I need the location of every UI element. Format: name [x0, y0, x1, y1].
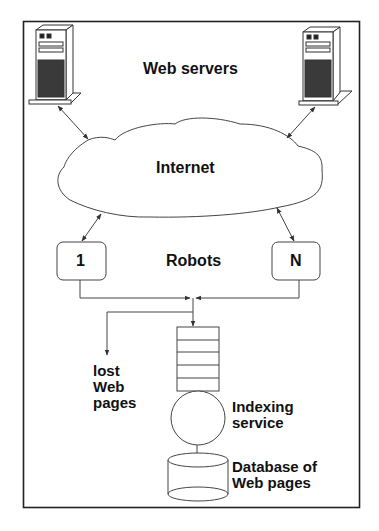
- indexing-service-circle: [171, 391, 225, 445]
- indexing-line-1: Indexing: [232, 399, 294, 415]
- indexing-line-2: service: [232, 415, 294, 431]
- database-label: Database of Web pages: [232, 459, 317, 491]
- server-right-icon: [299, 27, 352, 105]
- edge-internet-robot-n: [277, 208, 294, 241]
- edge-server-left-internet: [58, 106, 88, 139]
- lost-line-3: pages: [93, 395, 136, 411]
- edge-robot-1-merge: [80, 280, 190, 298]
- server-left-icon: [29, 25, 81, 104]
- indexing-service-label: Indexing service: [232, 399, 294, 431]
- web-servers-label: Web servers: [143, 61, 238, 78]
- lost-web-pages-label: lost Web pages: [93, 363, 136, 410]
- robots-label: Robots: [166, 253, 221, 270]
- edge-server-right-internet: [287, 107, 315, 138]
- robot-1-label: 1: [76, 253, 85, 270]
- queue-stack: [177, 327, 219, 391]
- edge-robot-n-merge: [196, 280, 299, 298]
- edge-internet-robot-1: [82, 214, 101, 241]
- database-line-1: Database of: [232, 459, 317, 475]
- lost-line-2: Web: [93, 379, 136, 395]
- lost-line-1: lost: [93, 363, 136, 379]
- database-line-2: Web pages: [232, 475, 317, 491]
- robot-n-label: N: [290, 253, 302, 270]
- database-cylinder: [168, 453, 228, 501]
- internet-label: Internet: [156, 160, 215, 177]
